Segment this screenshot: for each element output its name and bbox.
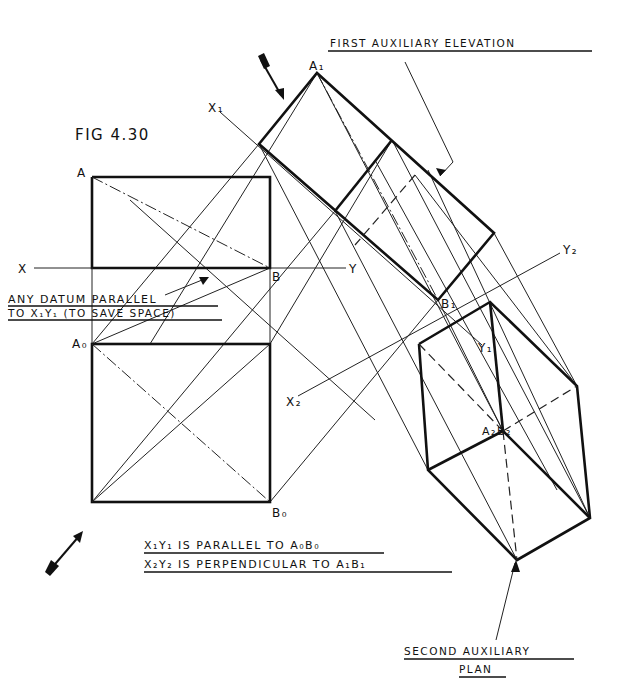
axis-Y1: Y₁: [477, 341, 493, 355]
plan-view: [92, 344, 270, 502]
point-B0: B₀: [272, 506, 288, 520]
datum-note-line1: ANY DATUM PARALLEL: [8, 293, 157, 306]
axis-Y2: Y₂: [562, 243, 578, 257]
point-B1: B₁: [441, 297, 457, 311]
axis-X1: X₁: [208, 101, 224, 115]
note-parallel: X₁Y₁ IS PARALLEL TO A₀B₀: [144, 539, 320, 552]
technical-drawing: FIG 4.30 FIRST AUXILIARY ELEVATION ANY D…: [0, 0, 632, 684]
datum-note-line2: TO X₁Y₁ (TO SAVE SPACE): [7, 307, 176, 319]
second-aux-plan-label-line2: PLAN: [459, 663, 492, 675]
axis-X2: X₂: [286, 395, 302, 409]
axis-X: X: [18, 262, 28, 276]
first-aux-elevation-label: FIRST AUXILIARY ELEVATION: [330, 37, 516, 49]
viewing-direction-arrow-bottom: [45, 531, 83, 576]
viewing-direction-arrow-top: [258, 53, 284, 100]
figure-title: FIG 4.30: [75, 126, 150, 144]
point-A2B2: A₂B₂: [482, 425, 512, 438]
point-A0: A₀: [72, 337, 88, 351]
note-perpendicular: X₂Y₂ IS PERPENDICULAR TO A₁B₁: [144, 558, 366, 571]
point-A1: A₁: [309, 59, 325, 73]
axis-Y: Y: [348, 262, 358, 276]
point-A: A: [77, 166, 87, 180]
point-B: B: [272, 270, 282, 284]
second-aux-plan-label-line1: SECOND AUXILIARY: [404, 645, 531, 657]
